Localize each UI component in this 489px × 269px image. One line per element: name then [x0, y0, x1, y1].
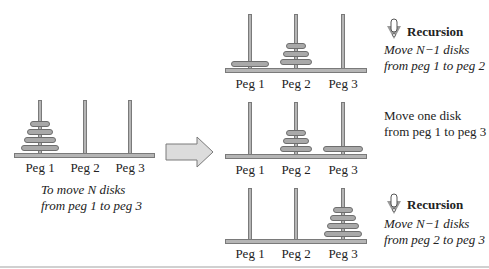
- step-2-caption: Move one disk from peg 1 to peg 3: [384, 108, 486, 140]
- disk: [327, 223, 359, 229]
- step3-peg-1: [248, 188, 252, 240]
- start-peg-3: [128, 100, 132, 154]
- disk: [30, 121, 50, 127]
- peg-label: Peg 1: [230, 246, 270, 262]
- peg-label: Peg 3: [323, 162, 363, 178]
- step1-peg-3: [341, 14, 345, 69]
- recursion-badge: Recursion: [407, 197, 463, 213]
- caption-line: Move one disk: [384, 108, 486, 124]
- peg-label: Peg 2: [276, 76, 316, 92]
- step2-base: [225, 154, 367, 159]
- disk: [280, 59, 312, 65]
- step3-peg-2: [294, 188, 298, 240]
- recursion-badge: Recursion: [407, 24, 463, 40]
- step1-base: [225, 68, 367, 73]
- disk: [283, 138, 309, 144]
- caption-line: Move N−1 disks: [384, 42, 485, 58]
- disk: [323, 146, 363, 152]
- peg-label: Peg 3: [323, 246, 363, 262]
- step-3-caption: Move N−1 disks from peg 2 to peg 3: [384, 216, 485, 248]
- warning-triangle-icon: [386, 18, 402, 40]
- start-caption: To move N disks from peg 1 to peg 3: [41, 182, 142, 214]
- start-base: [14, 153, 155, 158]
- caption-line: from peg 1 to peg 3: [41, 198, 142, 214]
- caption-line: To move N disks: [41, 182, 142, 198]
- disk: [286, 43, 306, 49]
- peg-label: Peg 2: [65, 160, 105, 176]
- peg-label: Peg 2: [276, 246, 316, 262]
- peg-label: Peg 1: [20, 160, 60, 176]
- peg-label: Peg 3: [323, 76, 363, 92]
- caption-line: Move N−1 disks: [384, 216, 485, 232]
- peg-label: Peg 2: [276, 162, 316, 178]
- right-arrow-icon: [165, 136, 215, 168]
- disk: [280, 146, 312, 152]
- disk: [27, 129, 53, 135]
- disk: [324, 231, 362, 237]
- disk: [283, 51, 309, 57]
- step-1-caption: Move N−1 disks from peg 1 to peg 2: [384, 42, 485, 74]
- peg-label: Peg 3: [110, 160, 150, 176]
- disk: [286, 130, 306, 136]
- disk: [231, 61, 269, 67]
- caption-line: from peg 1 to peg 3: [384, 124, 486, 140]
- disk: [21, 145, 59, 151]
- peg-label: Peg 1: [230, 162, 270, 178]
- disk: [333, 207, 353, 213]
- step2-peg-1: [248, 102, 252, 155]
- disk: [330, 215, 356, 221]
- start-peg-2: [83, 100, 87, 154]
- peg-label: Peg 1: [230, 76, 270, 92]
- warning-triangle-icon: [386, 193, 402, 215]
- step3-base: [225, 239, 367, 244]
- caption-line: from peg 1 to peg 2: [384, 58, 485, 74]
- bottom-divider: [0, 266, 489, 268]
- caption-line: from peg 2 to peg 3: [384, 232, 485, 248]
- disk: [24, 137, 56, 143]
